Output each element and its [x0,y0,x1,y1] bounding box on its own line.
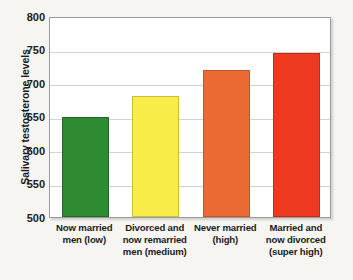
category-label-line: men (medium) [117,246,194,258]
y-tick-label: 600 [17,146,45,157]
y-tick-label: 750 [17,45,45,56]
bar [273,53,320,217]
category-label-line: (super high) [258,246,335,258]
plot-area [49,17,331,218]
category-label: Divorced andnow remarriedmen (medium) [117,222,194,259]
category-label-line: now divorced [258,234,335,246]
bar-chart: Salivary testosterone levels 50055060065… [0,0,353,280]
bar [62,117,109,218]
category-label: Never married(high) [187,222,264,246]
y-tick-label: 650 [17,112,45,123]
y-tick-label: 800 [17,12,45,23]
bar [203,70,250,217]
category-label: Now marriedmen (low) [46,222,123,246]
category-label-line: Now married [46,222,123,234]
category-label: Married andnow divorced(super high) [258,222,335,259]
category-label-line: men (low) [46,234,123,246]
x-axis-category-labels: Now marriedmen (low)Divorced andnow rema… [49,222,331,280]
y-axis-tick-labels: 500550600650700750800 [14,0,45,280]
y-tick-label: 550 [17,179,45,190]
category-label-line: Divorced and [117,222,194,234]
y-tick-label: 500 [17,213,45,224]
bar [132,96,179,217]
bars-group [50,18,330,217]
category-label-line: Married and [258,222,335,234]
category-label-line: Never married [187,222,264,234]
y-tick-label: 700 [17,79,45,90]
category-label-line: (high) [187,234,264,246]
category-label-line: now remarried [117,234,194,246]
